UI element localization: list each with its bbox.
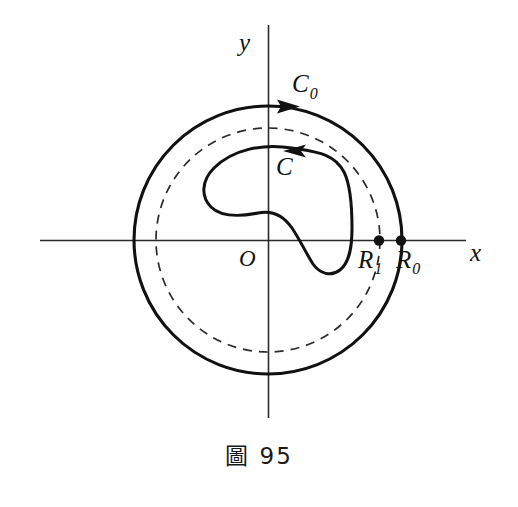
outer-curve-label-base: C: [292, 70, 309, 97]
point-label-r1-subscript: 1: [374, 260, 382, 277]
point-marker-r1: [374, 235, 384, 245]
outer-curve-label-subscript: 0: [310, 85, 318, 102]
point-label-r0-subscript: 0: [412, 260, 420, 277]
figure-canvas: y x O C0 C R1 R0: [0, 0, 518, 507]
point-label-r0: R0: [395, 246, 420, 277]
y-axis-label: y: [236, 29, 251, 56]
figure-root: y x O C0 C R1 R0 圖 95: [0, 0, 518, 507]
figure-caption-container: 圖 95: [0, 437, 518, 471]
inner-curve-label: C: [276, 153, 293, 180]
point-label-r1: R1: [357, 246, 382, 277]
point-label-r1-base: R: [357, 246, 373, 273]
figure-caption: 圖 95: [225, 437, 293, 471]
origin-label: O: [239, 246, 256, 271]
point-marker-r0: [396, 235, 406, 245]
point-label-r0-base: R: [395, 246, 411, 273]
outer-curve-label: C0: [292, 70, 318, 102]
x-axis-label: x: [469, 239, 481, 266]
